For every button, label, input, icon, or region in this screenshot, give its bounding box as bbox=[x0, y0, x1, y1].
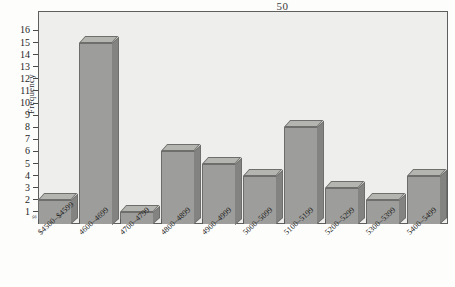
y-axis-tick: 7 bbox=[25, 133, 38, 145]
y-axis-tick: 11 bbox=[20, 85, 38, 97]
y-axis-tick: 2 bbox=[25, 194, 38, 206]
bar-side-face bbox=[440, 169, 447, 224]
y-axis-ticks: 16151413121110987654321 bbox=[0, 0, 38, 224]
y-axis-tick: 15 bbox=[20, 37, 38, 49]
y-axis-tick-label: 9 bbox=[25, 110, 33, 120]
y-axis-tick-label: 7 bbox=[25, 134, 33, 144]
histogram-figure: Frequency 16151413121110987654321 ≈ $450… bbox=[0, 0, 455, 287]
y-axis-tick: 14 bbox=[20, 49, 38, 61]
y-axis-tick-label: 15 bbox=[20, 38, 33, 48]
y-axis-tick: 12 bbox=[20, 73, 38, 85]
y-axis-tick-label: 11 bbox=[20, 86, 33, 96]
x-axis-tick-mark bbox=[325, 219, 326, 224]
y-axis-tick-label: 5 bbox=[25, 159, 33, 169]
y-axis-tick-label: 14 bbox=[20, 50, 33, 60]
bar-side-face bbox=[358, 181, 365, 224]
x-axis-tick-mark bbox=[161, 219, 162, 224]
x-axis-tick-mark bbox=[202, 219, 203, 224]
y-axis-tick-label: 16 bbox=[20, 25, 33, 35]
x-axis-tick-mark bbox=[120, 219, 121, 224]
y-axis-tick-label: 4 bbox=[25, 171, 33, 181]
bar-side-face bbox=[194, 145, 201, 224]
y-axis-tick: 9 bbox=[25, 109, 38, 121]
y-axis-tick: 13 bbox=[20, 61, 38, 73]
x-axis-tick-mark bbox=[38, 219, 39, 224]
y-axis-tick: 3 bbox=[25, 182, 38, 194]
y-axis-tick: 5 bbox=[25, 158, 38, 170]
bar-side-face bbox=[276, 169, 283, 224]
y-axis-tick-label: 8 bbox=[25, 122, 33, 132]
bar-series bbox=[38, 11, 448, 224]
y-axis-tick: 4 bbox=[25, 170, 38, 182]
y-axis-tick-label: 3 bbox=[25, 183, 33, 193]
histogram-bar bbox=[79, 35, 112, 225]
y-axis-tick: 16 bbox=[20, 24, 38, 36]
bar-front-face bbox=[79, 43, 112, 225]
y-axis-tick-label: 6 bbox=[25, 146, 33, 156]
y-axis-tick-label: 12 bbox=[20, 74, 33, 84]
y-axis-tick: 10 bbox=[20, 97, 38, 109]
x-axis-tick-mark bbox=[284, 219, 285, 224]
y-axis-tick-label: 2 bbox=[25, 195, 33, 205]
x-axis-labels: $4500–$45994600–46994700–47994800–489949… bbox=[38, 226, 448, 287]
y-axis-tick: 6 bbox=[25, 145, 38, 157]
x-axis-tick-mark bbox=[407, 219, 408, 224]
x-axis-tick-mark bbox=[366, 219, 367, 224]
page-root: 50 Frequency 16151413121110987654321 ≈ $… bbox=[0, 0, 455, 287]
x-axis-tick-mark bbox=[79, 219, 80, 224]
bar-side-face bbox=[399, 194, 406, 224]
y-axis-tick-label: 13 bbox=[20, 62, 33, 72]
bar-side-face bbox=[112, 36, 119, 224]
y-axis-tick-label: 10 bbox=[20, 98, 33, 108]
x-axis-tick-mark bbox=[243, 219, 244, 224]
bar-side-face bbox=[317, 121, 324, 224]
y-axis-tick: 8 bbox=[25, 121, 38, 133]
bar-side-face bbox=[235, 157, 242, 224]
